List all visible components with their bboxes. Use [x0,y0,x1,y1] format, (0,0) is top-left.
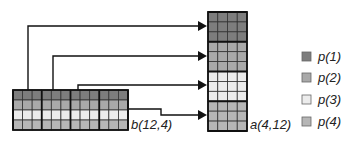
matrix-b-cell [51,90,61,100]
matrix-a-cell [228,42,238,52]
arrowhead-icon [198,80,207,90]
matrix-a-cell [218,121,228,131]
matrix-a-cell [218,101,228,111]
matrix-a-cell [208,42,218,52]
matrix-a-cell [218,81,228,91]
matrix-a-cell [208,91,218,101]
arrowhead-icon [198,110,207,120]
matrix-b-cell [13,90,23,100]
matrix-a-cell [228,91,238,101]
matrix-b-cell [99,110,109,120]
legend-swatch-icon [302,117,311,126]
matrix-b-cell [118,100,128,110]
matrix-a-cell [237,101,247,111]
matrix-b-cell [118,120,128,130]
connector-line [28,26,200,90]
matrix-b-cell [90,120,100,130]
matrix-a-cell [228,72,238,82]
matrix-a-cell [237,62,247,72]
matrix-a-cell [218,42,228,52]
matrix-b-cell [42,100,52,110]
matrix-a-cell [208,12,218,22]
matrix-b-cell [71,90,81,100]
matrix-a-cell [208,121,218,131]
matrix-a-cell [237,81,247,91]
matrix-a-cell [218,62,228,72]
matrix-a-cell [237,91,247,101]
matrix-a-cell [218,111,228,121]
matrix-b-cell [80,110,90,120]
matrix-b-cell [118,90,128,100]
matrix-a-cell [228,111,238,121]
legend: p(1)p(2)p(3)p(4) [302,49,341,129]
matrix-b-label: b(12,4) [131,117,172,132]
legend-item: p(4) [302,114,341,129]
legend-item: p(3) [302,92,341,107]
matrix-b-cell [51,120,61,130]
legend-swatch-icon [302,73,311,82]
matrix-b-cell [32,100,42,110]
matrix-b-cell [42,90,52,100]
matrix-b-cell [32,120,42,130]
matrix-b [13,90,128,130]
matrix-a-cell [208,101,218,111]
matrix-b-cell [13,100,23,110]
matrix-b-cell [109,90,119,100]
matrix-a-cell [208,52,218,62]
matrix-b-cell [42,120,52,130]
matrix-a-cell [237,32,247,42]
matrix-b-cell [51,100,61,110]
matrix-b-cell [80,90,90,100]
arrowhead-icon [198,51,207,61]
legend-item: p(2) [302,70,341,85]
legend-item: p(1) [302,49,341,64]
matrix-b-cell [80,100,90,110]
matrix-a-cell [218,91,228,101]
matrix-b-cell [23,110,33,120]
matrix-b-cell [61,110,71,120]
matrix-b-cell [23,120,33,130]
matrix-a-cell [228,32,238,42]
matrix-b-cell [23,90,33,100]
matrix-a-cell [208,32,218,42]
matrix-b-cell [61,100,71,110]
matrix-a-cell [237,111,247,121]
matrix-b-cell [90,100,100,110]
arrowhead-icon [198,21,207,31]
legend-label: p(1) [317,49,341,64]
matrix-b-cell [42,110,52,120]
matrix-a-cell [237,72,247,82]
matrix-b-cell [32,110,42,120]
matrix-a [208,12,247,131]
legend-swatch-icon [302,52,311,61]
matrix-a-cell [208,111,218,121]
legend-label: p(2) [317,70,341,85]
matrix-a-cell [237,42,247,52]
matrix-b-cell [118,110,128,120]
matrix-b-cell [13,120,23,130]
matrix-b-cell [99,120,109,130]
matrix-a-cell [228,101,238,111]
matrix-b-cell [71,120,81,130]
matrix-a-label: a(4,12) [250,117,291,132]
matrix-b-cell [90,90,100,100]
matrix-a-cell [218,52,228,62]
matrix-b-cell [61,90,71,100]
legend-label: p(4) [317,114,341,129]
matrix-b-cell [61,120,71,130]
matrix-b-cell [51,110,61,120]
matrix-a-cell [237,22,247,32]
matrix-a-cell [218,72,228,82]
matrix-b-cell [109,110,119,120]
connector-line [128,109,200,115]
matrix-a-cell [237,121,247,131]
matrix-a-cell [228,81,238,91]
matrix-a-cell [208,22,218,32]
matrix-a-cell [218,32,228,42]
matrix-a-cell [228,62,238,72]
legend-label: p(3) [317,92,341,107]
matrix-a-cell [208,62,218,72]
matrix-a-cell [237,52,247,62]
matrix-a-cell [218,22,228,32]
transpose-distribution-diagram: b(12,4) a(4,12) p(1)p(2)p(3)p(4) [0,0,355,143]
